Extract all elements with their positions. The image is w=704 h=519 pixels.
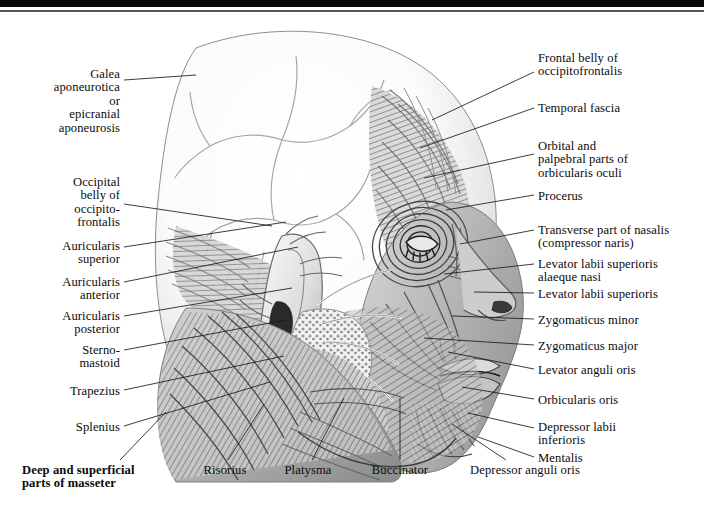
label-auricularis-anterior: Auricularis anterior — [8, 276, 120, 303]
label-temporal-fascia: Temporal fascia — [538, 102, 698, 115]
label-frontal-belly-of-occipitofrontalis: Frontal belly of occipitofrontalis — [538, 52, 698, 79]
label-levator-labii-superioris-alaeque-nasi: Levator labii superioris alaeque nasi — [538, 258, 702, 285]
label-auricularis-superior: Auricularis superior — [8, 240, 120, 267]
label-levator-anguli-oris: Levator anguli oris — [538, 364, 702, 377]
label-procerus: Procerus — [538, 190, 698, 203]
label-depressor-labii-inferioris: Depressor labii inferioris — [538, 421, 702, 448]
label-occipital-belly-of-occipitofrontalis: Occipital belly of occipito- frontalis — [12, 176, 120, 230]
label-zygomaticus-major: Zygomaticus major — [538, 340, 702, 353]
label-platysma: Platysma — [268, 464, 348, 477]
label-auricularis-posterior: Auricularis posterior — [8, 310, 120, 337]
label-orbicularis-oris: Orbicularis oris — [538, 394, 702, 407]
label-depressor-anguli-oris: Depressor anguli oris — [450, 464, 600, 477]
label-transverse-part-of-nasalis: Transverse part of nasalis (compressor n… — [538, 224, 702, 251]
label-trapezius: Trapezius — [28, 385, 120, 398]
label-levator-labii-superioris: Levator labii superioris — [538, 288, 702, 301]
label-galea-aponeurotica: Galea aponeurotica or epicranial aponeur… — [8, 68, 120, 135]
label-risorius: Risorius — [186, 464, 264, 477]
scan-edge-dark-bar — [0, 0, 704, 7]
label-orbital-and-palpebral-parts-of-orbicularis-oculi: Orbital and palpebral parts of orbicular… — [538, 140, 700, 180]
label-sterno-mastoid: Sterno- mastoid — [30, 344, 120, 371]
label-buccinator: Buccinator — [355, 464, 445, 477]
label-splenius: Splenius — [34, 421, 120, 434]
label-deep-and-superficial-parts-of-masseter: Deep and superficial parts of masseter — [22, 464, 182, 491]
label-zygomaticus-minor: Zygomaticus minor — [538, 314, 702, 327]
anatomy-plate: Galea aponeurotica or epicranial aponeur… — [0, 0, 704, 519]
